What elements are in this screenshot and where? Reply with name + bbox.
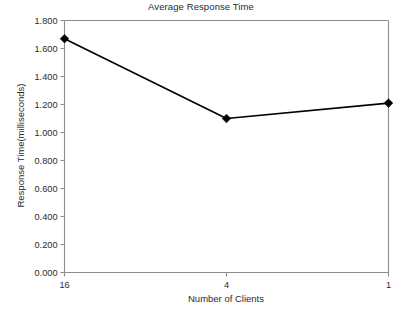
data-point-marker	[384, 99, 393, 108]
plot-frame	[65, 21, 389, 273]
y-tick-label: 0.400	[35, 212, 58, 222]
y-tick-label: 1.600	[35, 44, 58, 54]
x-axis-ticks: 1641	[59, 273, 391, 290]
data-series-line	[65, 39, 389, 119]
y-tick-label: 0.800	[35, 156, 58, 166]
y-tick-label: 0.200	[35, 240, 58, 250]
data-point-marker	[60, 34, 69, 43]
x-tick-label: 1	[386, 280, 391, 290]
chart-container: Average Response Time Response Time(mill…	[0, 0, 402, 313]
y-axis-ticks: 0.0000.2000.4000.6000.8001.0001.2001.400…	[35, 16, 65, 278]
y-tick-label: 1.800	[35, 16, 58, 26]
y-tick-label: 1.200	[35, 100, 58, 110]
plot-area: 0.0000.2000.4000.6000.8001.0001.2001.400…	[0, 0, 402, 313]
y-tick-label: 0.600	[35, 184, 58, 194]
data-point-marker	[222, 114, 231, 123]
x-tick-label: 4	[224, 280, 229, 290]
data-point-markers	[60, 34, 393, 122]
y-tick-label: 0.000	[35, 268, 58, 278]
x-tick-label: 16	[59, 280, 69, 290]
y-tick-label: 1.400	[35, 72, 58, 82]
y-tick-label: 1.000	[35, 128, 58, 138]
